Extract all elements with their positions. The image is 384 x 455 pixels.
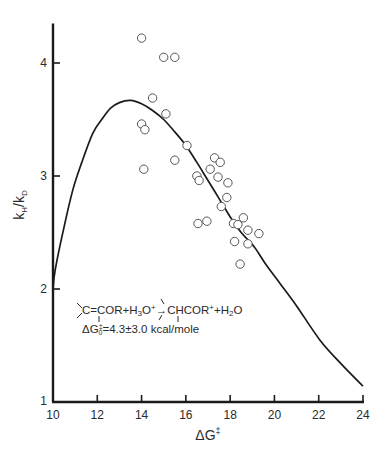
axes: [52, 23, 364, 402]
x-tick-label: 12: [91, 408, 105, 422]
chart: 10121416182022241234 kH/kD ΔG‡ C=COR+H3O…: [0, 0, 384, 455]
x-tick-label: 14: [135, 408, 149, 422]
y-tick-label: 1: [40, 394, 47, 408]
data-point: [216, 158, 224, 166]
y-tick-label: 2: [40, 282, 47, 296]
data-point: [244, 240, 252, 248]
plot-area: 10121416182022241234 kH/kD ΔG‡ C=COR+H3O…: [0, 0, 384, 455]
data-point: [194, 219, 202, 227]
y-axis-title: kH/kD: [11, 190, 29, 220]
y-tick-label: 3: [40, 169, 47, 183]
data-point: [203, 217, 211, 225]
data-point: [217, 202, 225, 210]
data-point: [224, 179, 232, 187]
x-tick-label: 24: [356, 408, 370, 422]
data-point: [171, 156, 179, 164]
x-tick-label: 22: [312, 408, 326, 422]
ticks: 10121416182022241234: [40, 56, 370, 422]
data-point: [206, 165, 214, 173]
data-point: [195, 176, 203, 184]
reaction-equation: C=COR+H3O+→CHCOR++H2O: [82, 303, 243, 318]
data-point: [239, 214, 247, 222]
data-point: [214, 173, 222, 181]
curve-path: [53, 100, 363, 386]
theoretical-curve: [53, 100, 363, 386]
data-point: [236, 260, 244, 268]
data-point: [141, 126, 149, 134]
x-tick-label: 10: [46, 408, 60, 422]
data-point: [183, 141, 191, 149]
data-points: [137, 34, 263, 268]
data-point: [137, 34, 145, 42]
x-tick-label: 20: [268, 408, 282, 422]
x-axis-title: ΔG‡: [195, 426, 220, 443]
x-tick-label: 18: [223, 408, 237, 422]
data-point: [160, 53, 168, 61]
data-point: [230, 237, 238, 245]
data-point: [148, 94, 156, 102]
x-tick-label: 16: [179, 408, 193, 422]
data-point: [255, 229, 263, 237]
data-point: [140, 165, 148, 173]
reaction-annotation: C=COR+H3O+→CHCOR++H2O ΔG‡0=4.3±3.0 kcal/…: [77, 299, 243, 336]
data-point: [162, 110, 170, 118]
data-point: [223, 193, 231, 201]
data-point: [244, 226, 252, 234]
data-point: [171, 53, 179, 61]
intrinsic-barrier-value: ΔG‡0=4.3±3.0 kcal/mole: [82, 323, 199, 336]
y-tick-label: 4: [40, 56, 47, 70]
